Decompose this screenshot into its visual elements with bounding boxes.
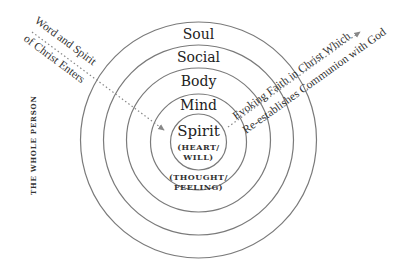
layer-label-mind: Mind [180, 97, 217, 113]
side-title: THE WHOLE PERSON [29, 95, 38, 195]
outbound-arrow-text-1: Evoking Faith in Christ Which [230, 29, 353, 122]
mind-sub-feeling: FEELING) [174, 182, 223, 192]
mind-sub-thought: (THOUGHT/ [169, 172, 228, 182]
core-sub-will: WILL) [182, 152, 213, 162]
layer-label-body: Body [181, 73, 217, 89]
core-label-spirit: Spirit [177, 122, 220, 140]
inbound-arrow [32, 32, 164, 130]
layer-label-social: Social [177, 49, 221, 65]
whole-person-diagram: Soul Social Body Mind Spirit (HEART/ WIL… [0, 0, 420, 280]
layer-label-soul: Soul [183, 26, 215, 42]
core-sub-heart: (HEART/ [177, 142, 220, 152]
inbound-arrow-text-2: of Christ Enters [22, 32, 88, 85]
